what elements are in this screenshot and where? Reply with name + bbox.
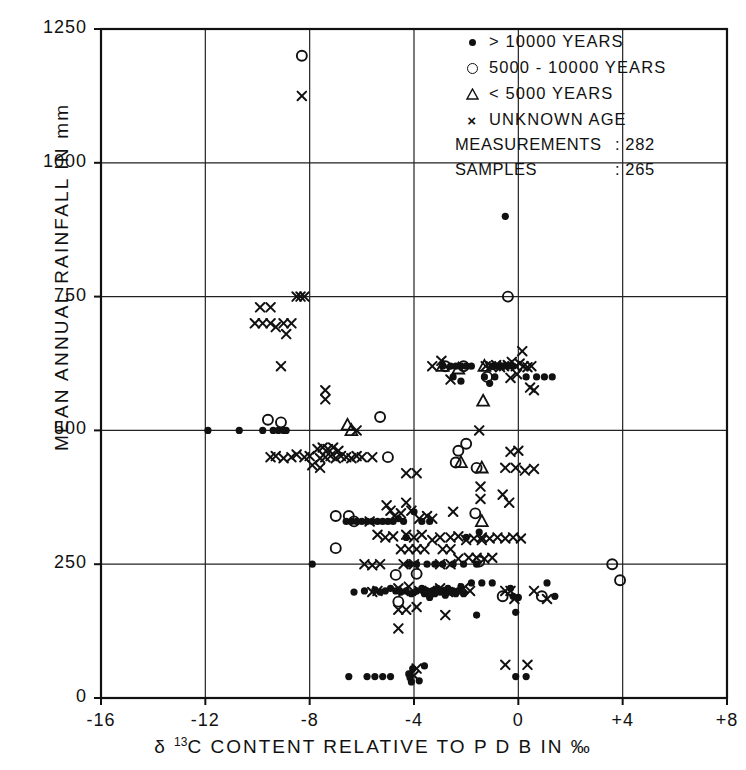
x-axis-label-delta: δ [154,736,174,757]
data-point-filled-circle [541,373,548,380]
data-point-x-marker [386,506,395,515]
x-axis-label: δ 13C CONTENT RELATIVE TO P D B IN ‰ [0,735,746,758]
x-tick-label: +4 [583,710,663,731]
data-point-open-circle [412,569,422,579]
data-point-x-marker [321,386,330,395]
data-point-filled-circle [468,579,475,586]
y-tick-label: 1000 [0,151,87,172]
data-point-x-marker [266,303,275,312]
data-point-x-marker [501,661,510,670]
x-tick-label: +8 [687,710,746,731]
data-point-open-triangle [477,395,489,406]
data-point-open-circle [276,417,286,427]
data-point-filled-circle [549,373,556,380]
data-point-x-marker [373,530,382,539]
data-point-filled-circle [350,588,357,595]
x-tick-label: -16 [61,710,141,731]
data-point-filled-circle [551,593,558,600]
data-point-x-marker [287,319,296,328]
data-point-open-circle [297,51,307,61]
data-point-x-marker [505,498,514,507]
data-point-filled-circle [473,611,480,618]
data-point-x-marker [402,605,411,614]
stat-samples-label: SAMPLES [455,160,615,179]
stat-samples-value: : 265 [615,160,655,179]
legend: > 10000 YEARS 5000 - 10000 YEARS < 5000 … [455,28,720,182]
legend-label-0: > 10000 YEARS [489,32,720,51]
data-point-open-circle [331,543,341,553]
data-point-filled-circle [423,561,430,568]
data-point-x-marker [476,482,485,491]
data-point-filled-circle [533,373,540,380]
legend-item-younger-than-5000: < 5000 YEARS [455,80,720,106]
x-marker-icon: × [455,110,489,129]
stat-measurements: MEASUREMENTS : 282 [455,132,720,157]
data-point-filled-circle [236,427,243,434]
data-point-x-marker [454,555,463,564]
stat-measurements-value: : 282 [615,135,655,154]
data-point-x-marker [298,92,307,101]
data-point-x-marker [251,319,260,328]
data-point-x-marker [438,545,447,554]
data-point-x-marker [420,545,429,554]
data-point-x-marker [530,465,539,474]
data-point-x-marker [523,661,532,670]
data-point-filled-circle [400,518,407,525]
data-point-x-marker [321,395,330,404]
legend-item-unknown-age: × UNKNOWN AGE [455,106,720,132]
data-point-x-marker [488,553,497,562]
legend-item-5000-10000: 5000 - 10000 YEARS [455,54,720,80]
data-point-x-marker [521,466,530,475]
filled-circle-icon [455,32,489,51]
data-point-x-marker [382,501,391,510]
data-point-x-marker [316,464,325,473]
x-tick-label: 0 [478,710,558,731]
stat-samples: SAMPLES : 265 [455,157,720,182]
data-point-x-marker [389,532,398,541]
y-tick-label: 0 [0,686,87,707]
data-point-open-circle [391,570,401,580]
x-tick-label: -4 [374,710,454,731]
legend-label-3: UNKNOWN AGE [489,110,720,129]
data-point-open-circle [615,575,625,585]
y-tick-label: 750 [0,285,87,306]
data-point-x-marker [282,330,291,339]
data-point-x-marker [402,498,411,507]
legend-label-1: 5000 - 10000 YEARS [489,58,720,77]
data-point-filled-circle [361,587,368,594]
data-point-x-marker [428,536,437,545]
data-point-filled-circle [543,579,550,586]
data-point-x-marker [446,545,455,554]
data-point-filled-circle [478,579,485,586]
data-point-filled-circle [523,673,530,680]
x-axis-label-rest: C CONTENT RELATIVE TO P D B IN ‰ [187,736,591,757]
data-point-filled-circle [421,662,428,669]
data-point-x-marker [277,362,286,371]
data-point-filled-circle [489,579,496,586]
data-point-x-marker [436,533,445,542]
y-tick-label: 500 [0,418,87,439]
data-point-x-marker [397,545,406,554]
data-point-x-marker [368,453,377,462]
data-point-open-circle [375,412,385,422]
data-point-open-circle [331,511,341,521]
data-point-x-marker [464,553,473,562]
data-point-x-marker [258,319,267,328]
data-point-x-marker [518,347,527,356]
data-point-x-marker [394,624,403,633]
data-point-x-marker [476,495,485,504]
data-point-x-marker [404,545,413,554]
y-tick-label: 1250 [0,17,87,38]
data-point-x-marker [256,303,265,312]
data-point-filled-circle [512,609,519,616]
data-point-x-marker [530,587,539,596]
y-tick-label: 250 [0,552,87,573]
data-point-filled-circle [502,213,509,220]
data-point-filled-circle [204,427,211,434]
data-point-filled-circle [387,673,394,680]
data-point-filled-circle [371,673,378,680]
data-point-open-circle [263,415,273,425]
data-point-filled-circle [379,673,386,680]
data-point-filled-circle [309,561,316,568]
x-tick-label: -12 [165,710,245,731]
